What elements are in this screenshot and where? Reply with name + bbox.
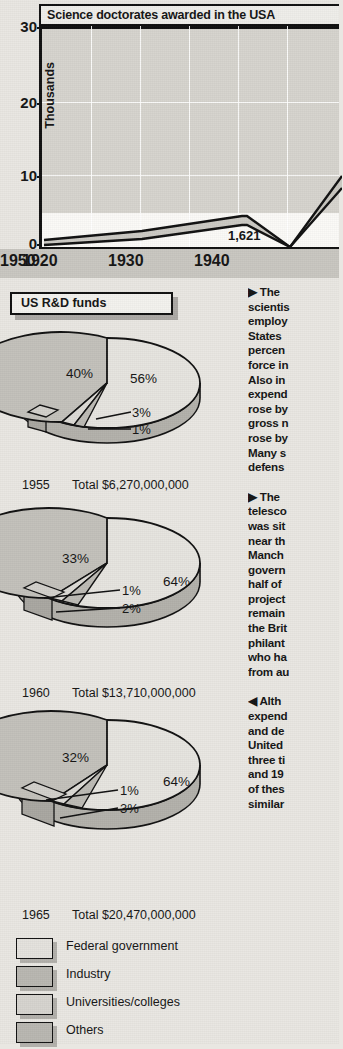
x-tick-1940: 1940 <box>194 252 230 270</box>
para1-line-12: Many s <box>248 446 343 461</box>
line-chart-plot-area <box>39 26 339 248</box>
pie-1965-label-federal: 64% <box>163 774 190 789</box>
para2-line-12: who ha <box>248 650 343 665</box>
para2-line-10: the Brit <box>248 621 343 636</box>
y-tick-10: 10 <box>3 167 37 184</box>
x-tick-1950: 1950 <box>0 252 36 270</box>
legend-label-universities-colleges: Universities/colleges <box>66 995 180 1009</box>
legend-label-others: Others <box>66 1023 104 1037</box>
pie-1960-svg <box>0 506 215 636</box>
para3-line-5: three ti <box>248 753 343 768</box>
para2-line-1: ▶ The <box>248 490 343 505</box>
pie-1955-year: 1955 <box>22 478 50 492</box>
pie-1965-caption: 1965 Total $20,470,000,000 <box>0 908 215 925</box>
para3-line-7: of thes <box>248 782 343 797</box>
para2-line-13: from au <box>248 665 343 680</box>
pie-1960-year: 1960 <box>22 686 50 700</box>
para2-line-4: near th <box>248 534 343 549</box>
series-upper-line <box>44 176 342 247</box>
para1-line-3: employ <box>248 314 343 329</box>
para2-line-6: govern <box>248 563 343 578</box>
line-series-group <box>42 26 342 248</box>
pie-1960-caption: 1960 Total $13,710,000,000 <box>0 686 215 703</box>
pie-1965-year: 1965 <box>22 908 50 922</box>
pie-1965-total: Total $20,470,000,000 <box>72 908 196 922</box>
pie-1960-label-callout-2: 2% <box>122 601 141 616</box>
legend-item-federal-government: Federal government <box>16 937 216 965</box>
legend-swatch-industry <box>16 966 53 987</box>
legend-swatch-others <box>16 1022 53 1043</box>
body-paragraph-2: ▶ The telesco was sit near th Manch gove… <box>248 490 343 680</box>
body-text-column: ▶ The scientis employ States percen forc… <box>248 285 343 1044</box>
para2-line-7: half of <box>248 577 343 592</box>
legend-label-federal-government: Federal government <box>66 939 178 953</box>
para2-line-11: philant <box>248 636 343 651</box>
rd-heading-label: US R&D funds <box>12 294 171 313</box>
para1-line-13: defens <box>248 460 343 475</box>
para2-line-3: was sit <box>248 519 343 534</box>
para1-line-2: scientis <box>248 300 343 315</box>
pie-1965-label-callout-2: 3% <box>120 801 139 816</box>
para2-line-2: telesco <box>248 504 343 519</box>
para1-line-8: expend <box>248 387 343 402</box>
para1-line-7: Also in <box>248 373 343 388</box>
rd-heading-box: US R&D funds <box>10 292 173 315</box>
y-tick-20: 20 <box>3 94 37 111</box>
pie-1960-label-industry: 33% <box>62 551 89 566</box>
body-paragraph-1: ▶ The scientis employ States percen forc… <box>248 285 343 475</box>
legend-swatch-universities-colleges <box>16 994 53 1015</box>
y-axis-label: Thousands <box>43 62 57 129</box>
para1-line-1: ▶ The <box>248 285 343 300</box>
para2-line-8: project <box>248 592 343 607</box>
para3-line-8: similar <box>248 797 343 812</box>
science-doctorates-line-chart: Science doctorates awarded in the USA 30… <box>0 0 339 278</box>
legend-label-industry: Industry <box>66 967 110 981</box>
para1-line-4: States <box>248 329 343 344</box>
para3-line-3: and de <box>248 724 343 739</box>
pie-1955-label-federal: 56% <box>130 371 157 386</box>
pie-1955-caption: 1955 Total $6,270,000,000 <box>0 478 215 495</box>
legend-item-others: Others <box>16 1021 216 1049</box>
legend-swatch-federal-government <box>16 938 53 959</box>
x-tick-1930: 1930 <box>108 252 144 270</box>
para1-line-11: rose by <box>248 431 343 446</box>
para3-line-4: United <box>248 738 343 753</box>
pie-1965-label-industry: 32% <box>62 750 89 765</box>
para3-line-2: expend <box>248 709 343 724</box>
para1-line-9: rose by <box>248 402 343 417</box>
pie-1955-svg <box>0 326 215 448</box>
pie-1955-label-callout-2: 1% <box>132 422 151 437</box>
pie-1960-label-federal: 64% <box>163 574 190 589</box>
pie-1955-total: Total $6,270,000,000 <box>72 478 189 492</box>
pie-legend: Federal government Industry Universities… <box>16 937 216 1049</box>
pie-chart-1965: 32% 64% 1% 3% <box>0 708 215 826</box>
para1-line-6: force in <box>248 358 343 373</box>
pie-1965-label-callout-1: 1% <box>120 783 139 798</box>
para3-line-6: and 19 <box>248 767 343 782</box>
legend-item-universities-colleges: Universities/colleges <box>16 993 216 1021</box>
line-chart-title-box: Science doctorates awarded in the USA <box>39 4 339 26</box>
page-title: Science doctorates awarded in the USA <box>41 6 339 24</box>
pie-1955-label-industry: 40% <box>66 366 93 381</box>
pie-chart-1955: 40% 56% 3% 1% <box>0 326 215 444</box>
body-paragraph-3: ◀ Alth expend and de United three ti and… <box>248 694 343 811</box>
para1-line-5: percen <box>248 343 343 358</box>
para3-line-1: ◀ Alth <box>248 694 343 709</box>
pie-1960-total: Total $13,710,000,000 <box>72 686 196 700</box>
pie-1955-label-callout-1: 3% <box>132 405 151 420</box>
para2-line-9: remain <box>248 606 343 621</box>
pie-1960-label-callout-1: 1% <box>122 583 141 598</box>
legend-item-industry: Industry <box>16 965 216 993</box>
y-tick-30: 30 <box>3 18 37 35</box>
para1-line-10: gross n <box>248 416 343 431</box>
pie-1965-svg <box>0 708 215 838</box>
pie-chart-1960: 33% 64% 1% 2% <box>0 506 215 624</box>
para2-line-5: Manch <box>248 548 343 563</box>
data-annotation-1621: 1,621 <box>228 228 261 243</box>
